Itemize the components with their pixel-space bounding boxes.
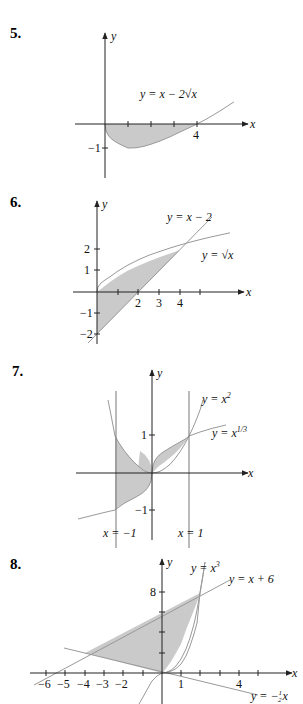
y-tick-label-neg1: −1 <box>135 503 148 517</box>
x-axis-label: x <box>249 117 256 131</box>
y-tick-label-2: 2 <box>84 242 90 256</box>
vline-left-label: x = −1 <box>102 526 137 540</box>
y-tick-label-neg1: −1 <box>80 306 93 320</box>
y-tick-label-8: 8 <box>150 585 156 599</box>
line-x-plus-6 <box>34 580 230 685</box>
y-axis-label: y <box>110 29 117 43</box>
x-tick-label-neg5: −5 <box>57 677 70 691</box>
x-tick-label-1: 1 <box>178 677 184 691</box>
problem-number: 7. <box>12 363 24 379</box>
curve-label: y = √x <box>201 248 234 262</box>
problem-number: 6. <box>10 194 22 210</box>
y-tick-label-1: 1 <box>141 428 147 442</box>
x-axis-label: x <box>247 466 254 480</box>
x-tick-label-neg2: −2 <box>115 677 128 691</box>
x-tick-label-4: 4 <box>236 677 242 691</box>
line-x-minus-2 <box>88 217 212 343</box>
problem-6: 6. 2 3 4 2 1 −1 −2 x y y = x − 2 y = √x <box>10 194 252 344</box>
problem-5: 5. 4 −1 x y y = x − 2√x <box>10 25 256 178</box>
problem-number: 5. <box>10 25 22 41</box>
y-tick-label-1: 1 <box>84 263 90 277</box>
line-label: y = x − 2 <box>166 210 212 224</box>
x-tick-label-2: 2 <box>135 296 141 310</box>
y-tick-label: −1 <box>88 141 101 155</box>
x-tick-label-neg4: −4 <box>77 677 90 691</box>
y-axis-label: y <box>101 197 108 211</box>
problem-number: 8. <box>10 556 22 572</box>
shaded-region-right <box>152 436 189 473</box>
figure-canvas: 5. 4 −1 x y y = x − 2√x 6. <box>0 0 303 704</box>
problem-7: 7. 1 −1 x y y = x2 y = x1/3 x = −1 x = 1 <box>12 363 254 548</box>
y-axis-label: y <box>166 555 173 569</box>
x-tick-label: 4 <box>193 128 199 142</box>
line-label-neg-half-x: y = −12x <box>250 689 289 704</box>
x-tick-label-neg6: −6 <box>38 677 51 691</box>
curve-label-x-squared: y = x2 <box>201 391 231 406</box>
line-label-x-plus-6: y = x + 6 <box>228 572 274 586</box>
x-axis-label: x <box>291 666 298 680</box>
x-tick-label-neg3: −3 <box>96 677 109 691</box>
curve-label: y = x − 2√x <box>139 87 197 101</box>
curve-label-x-cube-root: y = x1/3 <box>211 425 247 440</box>
y-axis-label: y <box>156 366 163 380</box>
curve-label-x-cubed: y = x3 <box>190 560 220 575</box>
y-tick-label-neg2: −2 <box>80 327 93 341</box>
x-tick-label-3: 3 <box>156 296 162 310</box>
problem-8: 8. −6 −5 −4 −3 −2 1 4 8 <box>10 555 298 704</box>
x-axis-label: x <box>245 285 252 299</box>
vline-right-label: x = 1 <box>177 526 203 540</box>
x-tick-label-4: 4 <box>177 296 183 310</box>
